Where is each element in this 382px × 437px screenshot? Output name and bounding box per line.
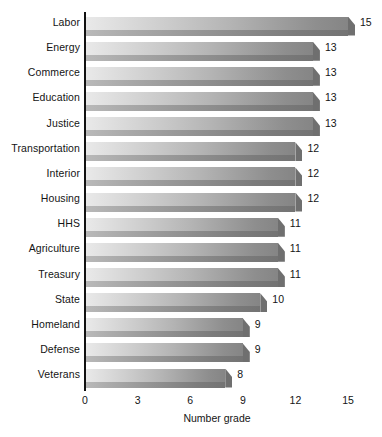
bar-bottom-face	[86, 231, 278, 237]
bar-value-label: 8	[237, 368, 243, 381]
category-label-agriculture: Agriculture	[0, 242, 80, 255]
bar-bottom-face	[86, 281, 278, 287]
bar-top-face	[86, 268, 278, 281]
bar-end-cap	[348, 17, 355, 36]
bar-bottom-face	[86, 306, 260, 312]
bar-top-face	[86, 67, 313, 80]
bar-bottom-face	[86, 356, 243, 362]
bar-row: Commerce13	[0, 64, 382, 89]
bar-energy	[86, 42, 313, 61]
bar-end-cap	[295, 167, 302, 186]
x-tick-label: 3	[118, 393, 158, 407]
bar-end-cap	[278, 268, 285, 287]
bar-top-face	[86, 218, 278, 231]
plot-area: Labor15Energy13Commerce13Education13Just…	[0, 0, 382, 437]
bar-value-label: 13	[325, 91, 337, 104]
bar-end-cap	[295, 193, 302, 212]
bar-row: Labor15	[0, 14, 382, 39]
bar-top-face	[86, 92, 313, 105]
bar-treasury	[86, 268, 278, 287]
bar-justice	[86, 117, 313, 136]
bar-bottom-face	[86, 256, 278, 262]
bar-bottom-face	[86, 105, 313, 111]
bar-bottom-face	[86, 80, 313, 86]
bar-row: Agriculture11	[0, 240, 382, 265]
bar-value-label: 13	[325, 117, 337, 130]
category-label-energy: Energy	[0, 41, 80, 54]
bar-row: HHS11	[0, 215, 382, 240]
bar-veterans	[86, 369, 225, 388]
bar-bottom-face	[86, 30, 348, 36]
bar-top-face	[86, 243, 278, 256]
category-label-veterans: Veterans	[0, 368, 80, 381]
bar-bottom-face	[86, 155, 295, 161]
category-label-commerce: Commerce	[0, 66, 80, 79]
bar-homeland	[86, 318, 243, 337]
bar-commerce	[86, 67, 313, 86]
bar-value-label: 13	[325, 41, 337, 54]
bar-value-label: 9	[255, 318, 261, 331]
category-label-interior: Interior	[0, 167, 80, 180]
bar-transportation	[86, 142, 295, 161]
x-axis-tick-labels: 03691215	[0, 393, 382, 409]
bar-end-cap	[243, 318, 250, 337]
bar-row: Homeland9	[0, 315, 382, 340]
bar-housing	[86, 193, 295, 212]
bar-end-cap	[243, 343, 250, 362]
bar-value-label: 13	[325, 66, 337, 79]
bar-bottom-face	[86, 331, 243, 337]
bar-value-label: 15	[360, 16, 372, 29]
bar-top-face	[86, 167, 295, 180]
bar-row: Defense9	[0, 340, 382, 365]
bar-value-label: 11	[290, 268, 301, 281]
bar-top-face	[86, 369, 225, 382]
bar-end-cap	[260, 293, 267, 312]
bar-bottom-face	[86, 55, 313, 61]
category-label-transportation: Transportation	[0, 142, 80, 155]
category-label-hhs: HHS	[0, 217, 80, 230]
x-tick-label: 15	[328, 393, 368, 407]
bar-row: Treasury11	[0, 265, 382, 290]
x-tick-label: 0	[65, 393, 105, 407]
bar-row: Veterans8	[0, 366, 382, 391]
bar-bottom-face	[86, 180, 295, 186]
bar-end-cap	[313, 42, 320, 61]
bar-value-label: 12	[307, 167, 319, 180]
bar-interior	[86, 167, 295, 186]
category-label-treasury: Treasury	[0, 268, 80, 281]
bar-agriculture	[86, 243, 278, 262]
bar-row: Energy13	[0, 39, 382, 64]
category-label-justice: Justice	[0, 117, 80, 130]
bar-row: Interior12	[0, 164, 382, 189]
bar-end-cap	[313, 117, 320, 136]
bar-top-face	[86, 117, 313, 130]
bar-hhs	[86, 218, 278, 237]
category-label-homeland: Homeland	[0, 318, 80, 331]
bar-end-cap	[225, 369, 232, 388]
bar-end-cap	[278, 218, 285, 237]
bar-value-label: 9	[255, 343, 261, 356]
bar-bottom-face	[86, 382, 225, 388]
x-tick-label: 9	[223, 393, 263, 407]
x-tick-label: 6	[170, 393, 210, 407]
bar-top-face	[86, 193, 295, 206]
x-tick-label: 12	[275, 393, 315, 407]
bar-row: Education13	[0, 89, 382, 114]
bar-education	[86, 92, 313, 111]
bar-row: Justice13	[0, 114, 382, 139]
bar-top-face	[86, 343, 243, 356]
bar-top-face	[86, 293, 260, 306]
bar-row: State10	[0, 290, 382, 315]
bar-end-cap	[313, 67, 320, 86]
bar-value-label: 11	[290, 217, 301, 230]
bar-end-cap	[278, 243, 285, 262]
bar-top-face	[86, 142, 295, 155]
category-label-housing: Housing	[0, 192, 80, 205]
bar-value-label: 11	[290, 242, 301, 255]
bar-defense	[86, 343, 243, 362]
x-axis-title: Number grade	[0, 411, 382, 425]
bar-bottom-face	[86, 130, 313, 136]
bar-top-face	[86, 42, 313, 55]
bar-row: Housing12	[0, 190, 382, 215]
category-label-education: Education	[0, 91, 80, 104]
